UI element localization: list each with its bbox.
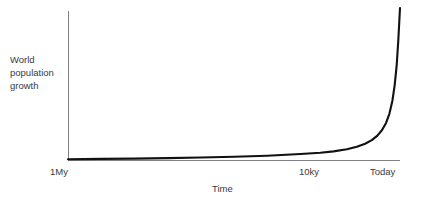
x-axis-label: Time — [212, 182, 233, 195]
curve-polyline — [68, 8, 400, 159]
x-tick-label-middle: 10ky — [299, 165, 319, 178]
chart-container: World population growth 1My 10ky Today T… — [0, 0, 424, 200]
x-tick-label-start: 1My — [50, 165, 68, 178]
x-tick-label-end: Today — [370, 165, 395, 178]
y-axis-label: World population growth — [10, 53, 66, 92]
